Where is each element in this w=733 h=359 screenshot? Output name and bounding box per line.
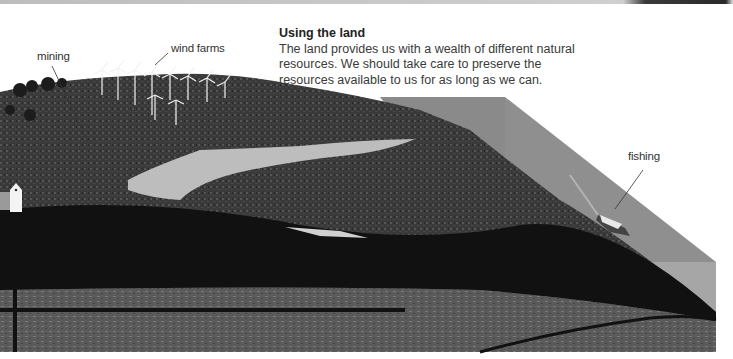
label-fishing: fishing <box>628 150 660 162</box>
mine-tunnel-upper <box>0 255 250 258</box>
label-mining: mining <box>37 50 70 62</box>
mine-tunnel-lower <box>0 308 405 312</box>
info-box: Using the land The land provides us with… <box>279 26 579 88</box>
label-wind-farms: wind farms <box>171 42 225 54</box>
info-body: The land provides us with a wealth of di… <box>279 42 579 89</box>
mine-shaft <box>13 210 17 352</box>
info-title: Using the land <box>279 26 579 42</box>
wind-farms-leader-line <box>155 53 168 65</box>
